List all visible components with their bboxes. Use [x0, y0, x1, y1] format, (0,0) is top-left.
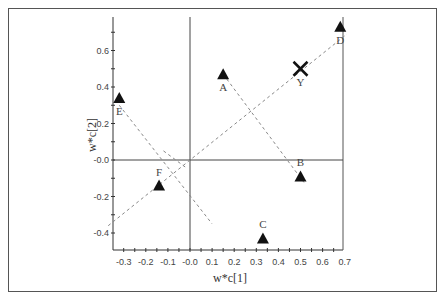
x-tick-label: -0.0: [182, 257, 198, 267]
point-e: E: [113, 92, 125, 117]
x-tick-label: 0.6: [316, 257, 329, 267]
x-tick-label: 0.2: [228, 257, 241, 267]
point-c: C: [257, 218, 269, 243]
x-tick-label: 0.5: [294, 257, 307, 267]
point-label: B: [297, 156, 304, 168]
x-axis-title: w*c[1]: [213, 271, 247, 285]
y-tick-label: 0.4: [96, 82, 109, 92]
x-tick-label: -0.2: [138, 257, 154, 267]
y-tick-label: 0.6: [96, 46, 109, 56]
triangle-marker-icon: [334, 21, 346, 32]
x-tick-label: -0.1: [160, 257, 176, 267]
point-y: Y: [294, 62, 308, 88]
dashed-line: [163, 151, 185, 167]
y-tick-label: -0.4: [93, 228, 109, 238]
point-f: F: [153, 166, 165, 191]
x-tick-label: 0.7: [338, 257, 351, 267]
x-tick-label: -0.3: [116, 257, 132, 267]
y-axis-title: w*c[2]: [85, 118, 99, 152]
dashed-line: [108, 34, 347, 226]
point-label: F: [156, 166, 162, 178]
point-label: Y: [297, 76, 305, 88]
point-label: D: [336, 34, 344, 46]
point-label: E: [116, 105, 123, 117]
x-tick-label: 0.3: [250, 257, 263, 267]
axes: 0.60.40.2-0.0-0.2-0.4-0.3-0.2-0.1-0.00.1…: [93, 17, 350, 267]
point-label: A: [219, 81, 227, 93]
dashed-loading-lines: [108, 34, 347, 226]
triangle-marker-icon: [113, 92, 125, 103]
triangle-marker-icon: [153, 180, 165, 191]
y-tick-label: -0.0: [93, 155, 109, 165]
triangle-marker-icon: [217, 68, 229, 79]
y-tick-label: -0.2: [93, 192, 109, 202]
data-points: ABCDEFY: [113, 21, 346, 244]
triangle-marker-icon: [257, 232, 269, 243]
point-a: A: [217, 68, 229, 93]
x-tick-label: 0.1: [206, 257, 219, 267]
x-tick-label: 0.4: [272, 257, 285, 267]
point-label: C: [259, 218, 266, 230]
scatter-plot: 0.60.40.2-0.0-0.2-0.4-0.3-0.2-0.1-0.00.1…: [0, 0, 444, 300]
point-d: D: [334, 21, 346, 46]
dashed-line: [223, 74, 305, 184]
